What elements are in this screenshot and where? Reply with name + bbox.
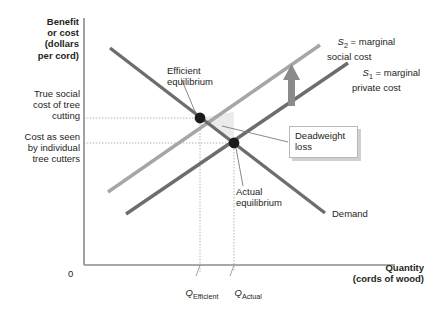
price-label-private-cost: Cost as seen by individual tree cutters (25, 131, 80, 165)
price-label-true-social-cost: True social cost of tree cutting (33, 88, 80, 122)
efficient-equilibrium-point (195, 113, 206, 124)
actual-equilibrium-label: Actual equilibrium (236, 186, 282, 208)
q-efficient-subscript: Efficient (193, 292, 218, 301)
q-efficient-label: QEfficient (175, 276, 218, 312)
curve-label-supply-private: S1 = marginal private cost (352, 56, 420, 104)
efficient-equilibrium-label: Efficient equilibrium (167, 65, 213, 87)
origin-label: 0 (68, 268, 73, 279)
curve-label-demand: Demand (332, 208, 368, 219)
leader-actual-equilibrium (236, 148, 243, 186)
q-actual-subscript: Actual (242, 292, 262, 301)
actual-equilibrium-point (229, 138, 240, 149)
q-efficient-symbol: Q (186, 287, 193, 298)
curve-supply-social (108, 45, 320, 192)
deadweight-loss-callout-box: Deadweight loss (289, 126, 358, 158)
deadweight-loss-label: Deadweight loss (295, 130, 345, 152)
tick-q-actual (230, 265, 234, 276)
tick-q-efficient (196, 265, 200, 276)
q-actual-label: QActual (224, 276, 262, 312)
x-axis-title: Quantity (cords of wood) (334, 262, 424, 284)
externality-diagram: Benefit or cost (dollars per cord) True … (0, 0, 432, 312)
q-actual-symbol: Q (235, 287, 242, 298)
y-axis-title: Benefit or cost (dollars per cord) (38, 16, 79, 61)
